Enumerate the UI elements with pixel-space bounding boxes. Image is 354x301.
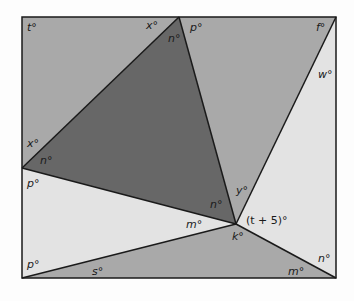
angle-label-n-top: n°	[168, 32, 180, 45]
angle-label-s: s°	[92, 265, 103, 278]
angle-label-f: f°	[316, 21, 325, 34]
geometry-diagram: t° x° n° p° f° w° x° n° p° y° n° m° (t +…	[0, 0, 354, 301]
angle-label-x-top: x°	[145, 19, 158, 32]
angle-label-p-left-lower: p°	[26, 258, 39, 271]
angle-label-n-left: n°	[40, 154, 52, 167]
angle-label-m-center: m°	[186, 218, 202, 231]
angle-label-p-top: p°	[189, 21, 202, 34]
angle-label-x-left: x°	[26, 137, 39, 150]
angle-label-y: y°	[235, 184, 248, 197]
angle-label-n-right: n°	[318, 252, 330, 265]
angle-label-t: t°	[27, 21, 37, 34]
angle-label-m-bottom: m°	[288, 265, 304, 278]
angle-label-p-left-upper: p°	[26, 177, 39, 190]
angle-label-t-plus-5: (t + 5)°	[246, 214, 288, 227]
angle-label-k: k°	[232, 230, 244, 243]
angle-label-n-center: n°	[210, 198, 222, 211]
angle-label-w: w°	[318, 68, 333, 81]
